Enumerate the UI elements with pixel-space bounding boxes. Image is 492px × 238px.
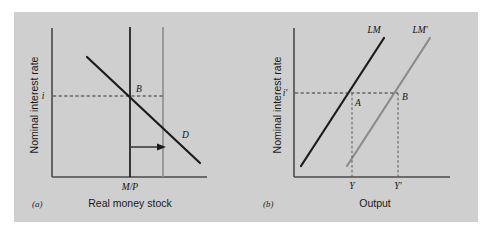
panel-a-x-axis-label: Real money stock: [88, 197, 172, 209]
panel-a-demand-curve-label: D: [181, 130, 189, 140]
figure-root: i B D M/P Real money stock Nominal inter…: [0, 0, 492, 238]
panel-a-y-tick-label: i: [42, 91, 45, 101]
panel-b-point-b-label: B: [402, 92, 408, 102]
panel-b-x-tick-label-y-prime: Y': [394, 181, 402, 191]
panel-b-caption: (b): [263, 199, 274, 209]
panel-b-x-axis-label: Output: [359, 197, 391, 209]
panel-b-y-tick-label: i': [283, 88, 289, 98]
panel-b-lm-prime-curve-label: LM': [411, 25, 428, 35]
panel-a-shift-arrow-head: [157, 143, 166, 150]
panel-b-point-a-label: A: [354, 98, 361, 108]
panel-a-caption: (a): [32, 199, 43, 209]
panel-a-group: i B D M/P Real money stock Nominal inter…: [28, 27, 207, 209]
figure-svg: i B D M/P Real money stock Nominal inter…: [0, 0, 492, 238]
panel-b-group: i' A B LM LM' Y Y' Output Nominal intere…: [263, 25, 450, 209]
panel-b-lm-curve-label: LM: [366, 25, 381, 35]
panel-a-x-tick-label: M/P: [121, 182, 139, 192]
panel-b-x-tick-label-y: Y: [349, 181, 356, 191]
panel-a-y-axis-label: Nominal interest rate: [28, 56, 40, 153]
panel-a-point-b-label: B: [136, 84, 142, 94]
panel-b-lm-curve: [301, 38, 384, 166]
panel-b-y-axis-label: Nominal interest rate: [271, 56, 283, 153]
